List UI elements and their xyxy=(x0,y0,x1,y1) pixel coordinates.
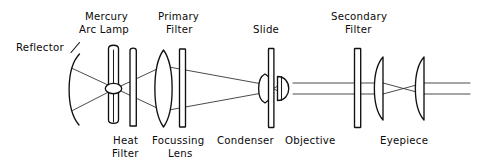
label-condenser: Condenser xyxy=(217,135,275,146)
eyepiece-eye-lens-component xyxy=(415,57,424,120)
slide-plate-icon xyxy=(269,49,274,128)
eyepiece-eye-lens-icon xyxy=(415,57,424,120)
focussing-lens-biconvex-icon xyxy=(155,50,172,127)
objective-component xyxy=(278,77,289,101)
label-primary-filter-line1: Primary xyxy=(158,11,199,22)
reflector-arc-icon xyxy=(69,54,79,125)
focussing-lens-component xyxy=(155,50,172,127)
mercury-arc-lamp-component xyxy=(105,45,121,123)
label-primary-filter-line2: Filter xyxy=(166,24,193,35)
lamp-arc-gap-icon xyxy=(105,83,121,93)
eyepiece-field-lens-component xyxy=(374,57,383,120)
primary-filter-plate-icon xyxy=(180,49,186,127)
reflector-leader-line xyxy=(71,43,80,53)
secondary-filter-plate-icon xyxy=(355,49,361,128)
eyepiece-field-lens-icon xyxy=(374,57,383,120)
objective-plano-convex-icon xyxy=(278,77,289,101)
ray-lens-to-condenser-lower xyxy=(164,93,266,112)
optical-diagram-figure: Reflector Mercury Arc Lamp Primary Filte… xyxy=(0,0,479,166)
bottom-labels-group: Heat Filter Focussing Lens Condenser Obj… xyxy=(112,135,428,159)
heat-filter-plate-icon xyxy=(130,48,136,126)
secondary-filter-component xyxy=(355,49,361,128)
label-secondary-filter-line2: Filter xyxy=(345,24,372,35)
label-focussing-lens-line1: Focussing xyxy=(152,135,204,146)
label-eyepiece: Eyepiece xyxy=(380,135,428,146)
top-labels-group: Reflector Mercury Arc Lamp Primary Filte… xyxy=(16,11,387,53)
label-mercury-arc-lamp-line2: Arc Lamp xyxy=(79,24,129,35)
primary-filter-component xyxy=(180,49,186,127)
reflector-component xyxy=(69,54,79,125)
slide-component xyxy=(269,49,274,128)
label-mercury-arc-lamp-line1: Mercury xyxy=(85,11,128,22)
heat-filter-component xyxy=(130,48,136,126)
ray-lens-to-condenser-upper xyxy=(164,66,266,85)
label-reflector: Reflector xyxy=(16,42,64,53)
optical-path-svg: Reflector Mercury Arc Lamp Primary Filte… xyxy=(0,0,479,166)
label-heat-filter-line2: Filter xyxy=(112,148,139,159)
label-focussing-lens-line2: Lens xyxy=(168,148,193,159)
label-heat-filter-line1: Heat xyxy=(113,135,138,146)
label-objective: Objective xyxy=(285,135,336,146)
label-secondary-filter-line1: Secondary xyxy=(331,11,387,22)
label-slide: Slide xyxy=(253,24,279,35)
